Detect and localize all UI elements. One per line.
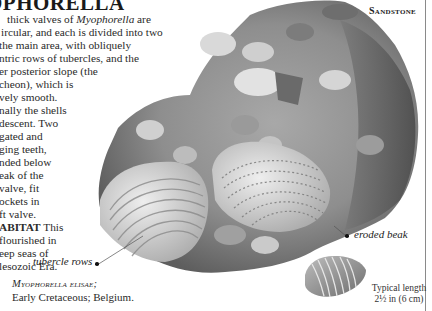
body-line: ntric rows of tubercles, and the [0, 52, 139, 65]
body-line: eak of the [0, 169, 44, 182]
body-line: vely smooth. [0, 91, 57, 104]
body-line: er posterior slope (the [0, 65, 98, 78]
body-line: nally the shells [0, 104, 67, 117]
body-line: ft valve. [0, 208, 36, 221]
body-line: flourished in [0, 234, 56, 247]
measure-value: 2½ in (6 cm) [364, 294, 432, 305]
body-line: nded below [0, 156, 51, 169]
section-label: Sandstone [369, 5, 416, 16]
body-line: ircular, and each is divided into two [1, 26, 163, 39]
body-line: ging teeth, [0, 143, 47, 156]
annotation-dot [345, 234, 349, 238]
body-line: descent. Two [0, 117, 58, 130]
body-line: valve, fit [0, 182, 39, 195]
typical-length: Typical length 2½ in (6 cm) [364, 283, 432, 305]
body-line: cheon), which is [0, 78, 73, 91]
annotation-eroded-beak: eroded beak [354, 228, 408, 240]
body-line: thick valves of Myophorella are [7, 13, 151, 26]
specimen-caption: Myophorella elisae; Early Cretaceous; Be… [12, 278, 134, 303]
species-name: Myophorella elisae; [12, 278, 134, 291]
body-line: gated and [0, 130, 43, 143]
habitat-line: ABITAT This [0, 221, 63, 234]
body-line: ockets in [0, 195, 39, 208]
specimen-details: Early Cretaceous; Belgium. [12, 291, 134, 304]
left-shell [100, 162, 208, 262]
annotation-tubercle-rows: tubercle rows [33, 255, 92, 267]
annotation-dot [95, 262, 99, 266]
body-line: the main area, with obliquely [0, 39, 131, 52]
page-divider [425, 0, 426, 311]
measure-label: Typical length [364, 283, 432, 294]
small-shell-specimen [305, 256, 366, 297]
